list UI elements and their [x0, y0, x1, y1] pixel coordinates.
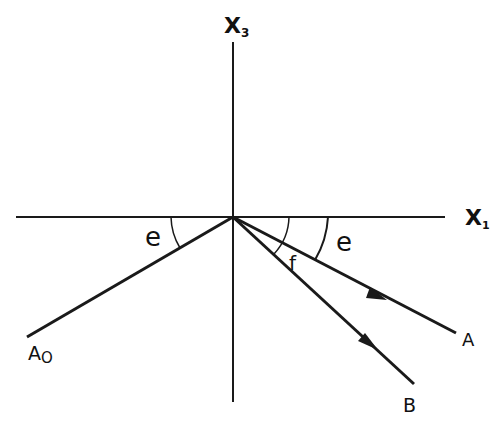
angle-arc-incident-e — [171, 217, 180, 248]
angle-label-converted-f: f — [289, 251, 297, 275]
ray-label-b: B — [403, 394, 416, 416]
incident-ray-a0 — [27, 217, 233, 337]
x1-axis-label: X1 — [465, 205, 490, 232]
ray-label-a: A — [462, 329, 475, 350]
x3-axis-label: X3 — [224, 13, 249, 40]
reflection-diagram: X3 X1 e e f AO A B — [0, 0, 500, 423]
angle-label-incident-e: e — [145, 222, 161, 252]
angle-label-reflected-e: e — [336, 227, 352, 257]
angle-arc-converted-f — [274, 217, 289, 254]
angle-arc-reflected-e — [315, 217, 328, 260]
ray-label-a0: AO — [28, 342, 53, 367]
